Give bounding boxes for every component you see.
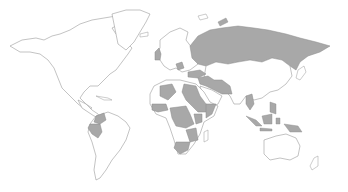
- borneo: [262, 114, 272, 124]
- svalbard: [198, 14, 208, 20]
- sumatra: [246, 116, 262, 126]
- caribbean: [96, 96, 112, 100]
- iceland: [140, 32, 148, 37]
- north-america: [10, 16, 132, 110]
- greenland: [112, 10, 150, 50]
- java: [260, 128, 272, 131]
- japan: [296, 66, 306, 80]
- novaya-zemlya: [218, 18, 228, 26]
- madagascar: [204, 130, 208, 142]
- new-guinea: [284, 124, 302, 132]
- philippines: [270, 102, 276, 114]
- sulawesi: [276, 118, 280, 124]
- australia: [264, 134, 300, 160]
- central-america: [78, 100, 100, 118]
- world-map: [0, 0, 348, 192]
- new-zealand: [310, 156, 318, 170]
